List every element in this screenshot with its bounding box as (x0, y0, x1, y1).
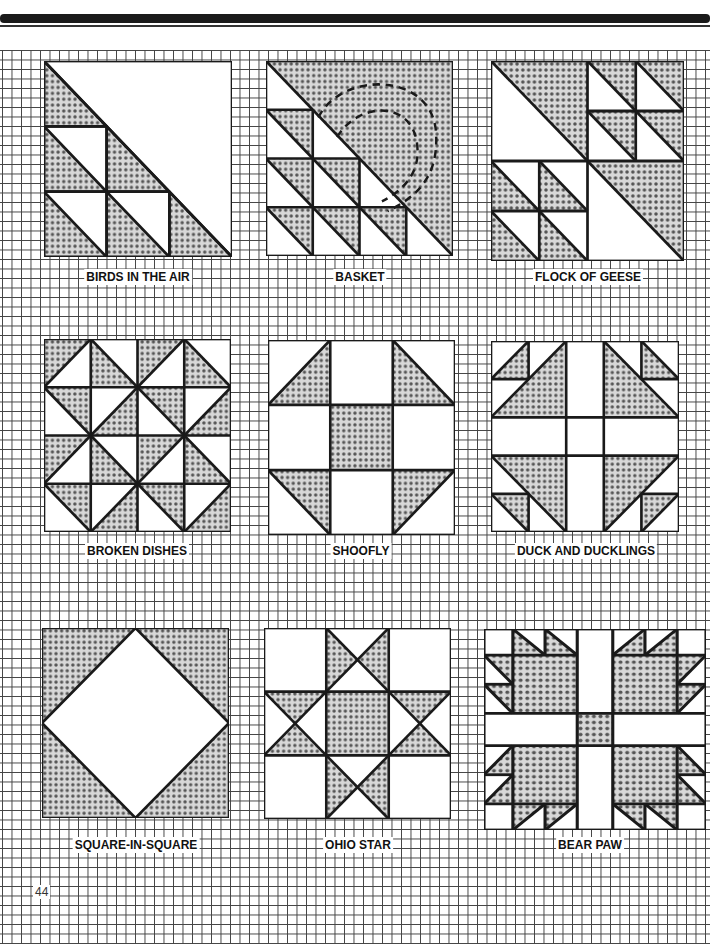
quilt-block-square-in-square (42, 628, 229, 818)
quilt-block-duck-and-ducklings (491, 341, 679, 532)
block-label: DUCK AND DUCKLINGS (515, 543, 657, 559)
block-label: SQUARE-IN-SQUARE (73, 837, 200, 853)
quilt-block-birds-in-the-air (44, 61, 232, 257)
block-label: BEAR PAW (556, 837, 624, 853)
header-rule-thin (0, 25, 710, 27)
quilt-block-bear-paw (484, 629, 706, 830)
block-label: BASKET (333, 269, 386, 285)
block-label: FLOCK OF GEESE (533, 269, 643, 285)
page-number: 44 (33, 885, 50, 899)
header-rule-thick (0, 14, 710, 23)
block-label: BROKEN DISHES (85, 543, 189, 559)
block-label: SHOOFLY (331, 543, 392, 559)
quilt-block-ohio-star (264, 628, 451, 819)
block-label: BIRDS IN THE AIR (84, 269, 192, 285)
quilt-block-shoofly (268, 340, 455, 535)
block-label: OHIO STAR (323, 837, 393, 853)
quilt-block-flock-of-geese (491, 61, 684, 261)
quilt-block-basket (266, 61, 453, 256)
quilt-block-broken-dishes (44, 339, 231, 532)
